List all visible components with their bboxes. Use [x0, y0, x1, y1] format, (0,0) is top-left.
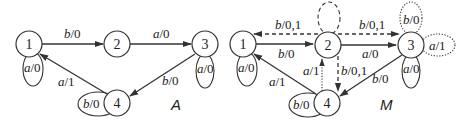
a-state-1: 1	[16, 31, 42, 57]
a-state-3: 3	[192, 31, 218, 57]
a-state-3-label: 3	[202, 37, 209, 52]
m-label-1-2: b/0	[278, 46, 295, 61]
m-label-2-4: b/0,1	[341, 63, 367, 78]
m-state-2: 2	[315, 32, 341, 58]
a-state-4-label: 4	[114, 96, 121, 111]
diagram-m-title: M	[380, 96, 393, 113]
m-loop-1-label: a/0	[238, 60, 255, 75]
a-label-1-2: b/0	[64, 26, 81, 41]
a-label-2-3: a/0	[153, 26, 170, 41]
m-state-3: 3	[398, 32, 424, 58]
a-state-2-label: 2	[114, 37, 121, 52]
a-label-3-4: b/0	[162, 73, 179, 88]
m-loop-4-label: b/0	[293, 97, 310, 112]
m-state-4: 4	[314, 90, 340, 116]
m-loop-3-right-label: a/1	[429, 38, 446, 53]
m-loop-2	[318, 2, 340, 34]
m-state-2-label: 2	[325, 38, 332, 53]
m-label-2-3-dashed: b/0,1	[359, 17, 385, 32]
m-state-4-label: 4	[324, 96, 331, 111]
m-label-2-1: b/0,1	[275, 17, 301, 32]
state-diagrams: 1 2 3 4 b/0 a/0 b/0 a/1 a/0 a/0 b/0 A	[0, 0, 471, 125]
a-label-4-1: a/1	[58, 74, 75, 89]
a-loop-4-label: b/0	[83, 96, 100, 111]
m-loop-3-bottom-label: a/0	[403, 61, 420, 76]
m-loop-3-top-label: b/0	[403, 12, 420, 27]
m-label-2-3: a/0	[362, 46, 379, 61]
a-state-4: 4	[104, 90, 130, 116]
a-state-2: 2	[104, 31, 130, 57]
m-label-4-1: a/1	[269, 74, 286, 89]
diagram-a: 1 2 3 4 b/0 a/0 b/0 a/1 a/0 a/0 b/0 A	[16, 26, 218, 116]
m-label-4-2: a/1	[303, 63, 320, 78]
a-state-1-label: 1	[26, 37, 33, 52]
m-state-3-label: 3	[408, 38, 415, 53]
a-loop-1-label: a/0	[24, 60, 41, 75]
diagram-m: 1 2 3 4 b/0 b/0,1 a/0 b/0,1 b/0,1 a/1 b/…	[230, 2, 455, 117]
a-loop-3-label: a/0	[197, 61, 214, 76]
diagram-a-title: A	[170, 96, 181, 113]
m-label-3-4: b/0	[372, 71, 389, 86]
m-state-1-label: 1	[240, 37, 247, 52]
m-state-1: 1	[230, 31, 256, 57]
